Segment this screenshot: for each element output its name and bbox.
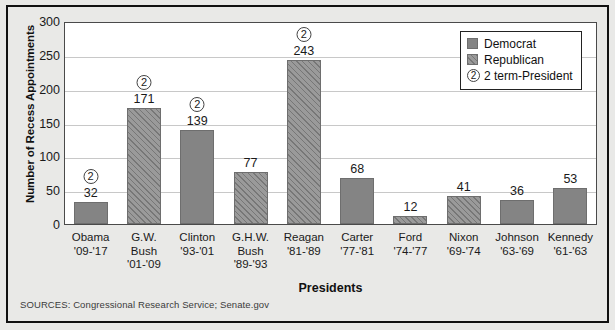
bar-group[interactable]: 77: [224, 23, 277, 224]
x-tick-label-line: '74-'77: [384, 245, 437, 259]
legend-label: 2 term-President: [484, 69, 573, 83]
bar-clinton[interactable]: [180, 130, 214, 224]
x-tick-label-line: Ford: [384, 231, 437, 245]
two-term-badge-icon: 2: [190, 97, 205, 112]
y-axis-tick-labels: 050100150200250300: [22, 22, 60, 225]
x-tick-label: Nixon'69-'74: [437, 231, 490, 258]
bar-value-label: 12: [403, 200, 417, 214]
legend-item[interactable]: Democrat: [467, 36, 575, 51]
x-tick-label-line: Carter: [331, 231, 384, 245]
two-term-badge-icon: 2: [83, 169, 98, 184]
x-tick-label: Clinton'93-'01: [171, 231, 224, 258]
bar-nixon[interactable]: [447, 196, 481, 224]
x-tick-label: Ford'74-'77: [384, 231, 437, 258]
bar-kennedy[interactable]: [553, 188, 587, 224]
x-tick-label: Kennedy'61-'63: [544, 231, 597, 258]
x-tick-label-line: Clinton: [171, 231, 224, 245]
bar-ford[interactable]: [393, 216, 427, 224]
bar-group[interactable]: 12: [384, 23, 437, 224]
bar-group[interactable]: 68: [331, 23, 384, 224]
bar-group[interactable]: 2432: [277, 23, 330, 224]
x-tick-label-line: Reagan: [277, 231, 330, 245]
bar-value-label: 53: [563, 172, 577, 186]
two-term-badge-icon: 2: [136, 75, 151, 90]
x-tick-label-line: Kennedy: [544, 231, 597, 245]
x-tick-label-line: '77-'81: [331, 245, 384, 259]
chart-legend: DemocratRepublican22 term-President: [460, 31, 582, 90]
bar-value-label: 243: [293, 44, 314, 58]
two-term-badge-icon: 2: [296, 27, 311, 42]
x-axis-title: Presidents: [64, 281, 597, 295]
x-tick-label: G.H.W.Bush'89-'93: [224, 231, 277, 272]
x-tick-label-line: Nixon: [437, 231, 490, 245]
sources-note: SOURCES: Congressional Research Service;…: [20, 299, 269, 310]
bar-group[interactable]: 1712: [117, 23, 170, 224]
y-tick-label-300: 300: [26, 15, 60, 29]
x-tick-label-line: Johnson: [490, 231, 543, 245]
bar-group[interactable]: 1392: [171, 23, 224, 224]
bar-carter[interactable]: [340, 178, 374, 224]
legend-label: Democrat: [484, 37, 536, 51]
bar-obama[interactable]: [74, 202, 108, 224]
legend-two-term-badge-icon: 2: [467, 69, 480, 82]
recess-appointments-chart: Number of Recess Appointments 0501001502…: [0, 0, 615, 330]
bar-group[interactable]: 322: [64, 23, 117, 224]
y-tick-label-200: 200: [26, 83, 60, 97]
bar-value-label: 68: [350, 162, 364, 176]
legend-item[interactable]: 22 term-President: [467, 68, 575, 83]
x-tick-label: G.W.Bush'01-'09: [117, 231, 170, 272]
x-tick-label-line: '81-'89: [277, 245, 330, 259]
legend-label: Republican: [484, 53, 544, 67]
legend-item[interactable]: Republican: [467, 52, 575, 67]
x-tick-label-line: G.H.W.: [224, 231, 277, 245]
y-tick-label-150: 150: [26, 117, 60, 131]
bar-g-w-bush[interactable]: [127, 108, 161, 224]
x-tick-label-line: '63-'69: [490, 245, 543, 259]
bar-value-label: 77: [244, 156, 258, 170]
bar-g-h-w-bush[interactable]: [234, 172, 268, 224]
x-tick-label-line: Bush: [224, 245, 277, 259]
x-tick-label-line: G.W.: [117, 231, 170, 245]
bar-value-label: 32: [84, 186, 98, 200]
x-tick-label-line: '93-'01: [171, 245, 224, 259]
x-tick-label: Carter'77-'81: [331, 231, 384, 258]
y-tick-label-50: 50: [26, 184, 60, 198]
x-tick-label: Reagan'81-'89: [277, 231, 330, 258]
x-tick-label-line: Obama: [64, 231, 117, 245]
bar-reagan[interactable]: [287, 60, 321, 224]
x-tick-label-line: '01-'09: [117, 258, 170, 272]
x-tick-label-line: '89-'93: [224, 258, 277, 272]
y-tick-label-0: 0: [26, 218, 60, 232]
bar-value-label: 41: [457, 180, 471, 194]
x-tick-label-line: '61-'63: [544, 245, 597, 259]
legend-swatch-republican: [467, 54, 478, 65]
y-tick-label-100: 100: [26, 150, 60, 164]
y-tick-label-250: 250: [26, 49, 60, 63]
x-axis-tick-labels: Obama'09-'17G.W.Bush'01-'09Clinton'93-'0…: [64, 231, 597, 275]
bar-value-label: 36: [510, 184, 524, 198]
bar-value-label: 139: [187, 114, 208, 128]
bar-johnson[interactable]: [500, 200, 534, 224]
x-tick-label-line: '09-'17: [64, 245, 117, 259]
x-tick-label: Johnson'63-'69: [490, 231, 543, 258]
bar-value-label: 171: [134, 92, 155, 106]
x-tick-label: Obama'09-'17: [64, 231, 117, 258]
x-tick-label-line: Bush: [117, 245, 170, 259]
x-tick-label-line: '69-'74: [437, 245, 490, 259]
legend-swatch-democrat: [467, 38, 478, 49]
